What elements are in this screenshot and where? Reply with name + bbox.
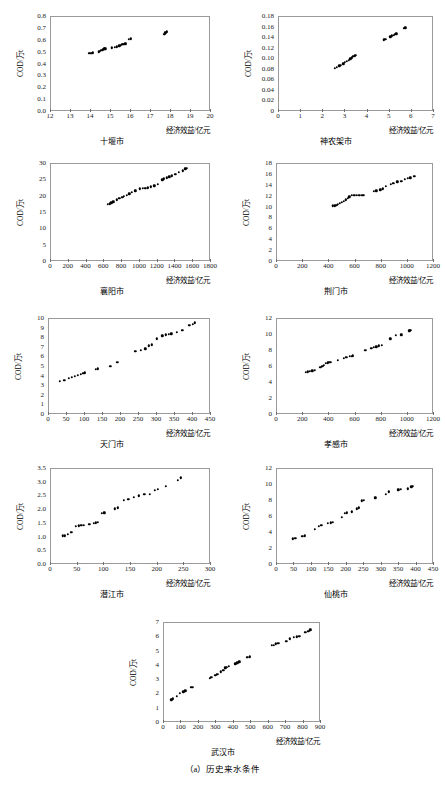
y-tick-mark (276, 208, 277, 209)
x-tick-mark (381, 259, 382, 262)
y-tick-mark (50, 17, 51, 18)
x-tick-mark (50, 109, 51, 112)
y-tick-label: 5 (43, 241, 47, 248)
y-tick-mark (50, 41, 51, 42)
data-point (153, 184, 155, 186)
x-tick-mark (180, 720, 181, 723)
chart-7: COD/万t0246810120501001502002503003504004… (228, 458, 444, 600)
y-tick-label: 1.0 (37, 533, 46, 540)
x-tick-mark (157, 259, 158, 262)
x-tick-label: 400 (323, 263, 334, 270)
y-tick-label: 2 (41, 391, 45, 398)
y-tick-label: 0 (41, 411, 45, 418)
x-tick-mark (84, 412, 85, 415)
x-tick-label: 150 (97, 416, 108, 423)
data-point (156, 337, 158, 339)
y-tick-mark (48, 348, 49, 349)
x-tick-mark (416, 562, 417, 565)
x-tick-label: 1200 (426, 263, 440, 270)
data-point (140, 349, 142, 351)
y-tick-mark (276, 229, 277, 230)
x-tick-mark (210, 109, 211, 112)
x-axis-label: 经济效益/亿元 (276, 427, 433, 438)
chart-8: COD/万t0123456701002003004005006007008009… (115, 612, 331, 762)
data-point (412, 485, 414, 487)
y-tick-mark (276, 319, 277, 320)
x-tick-label: 800 (375, 263, 386, 270)
data-point (186, 167, 188, 169)
y-tick-mark (48, 319, 49, 320)
y-axis-label-text: COD/万t (240, 352, 251, 379)
x-tick-mark (150, 109, 151, 112)
data-point (314, 369, 316, 371)
x-tick-mark (407, 412, 408, 415)
data-point (216, 673, 218, 675)
y-tick-mark (50, 496, 51, 497)
y-tick-mark (276, 399, 277, 400)
data-point (127, 498, 129, 500)
x-tick-mark (86, 259, 87, 262)
y-tick-mark (50, 469, 51, 470)
x-tick-mark (170, 109, 171, 112)
y-tick-mark (163, 709, 164, 710)
x-tick-mark (293, 562, 294, 565)
y-tick-labels: 024681012 (252, 468, 274, 564)
y-tick-mark (50, 53, 51, 54)
data-point (177, 479, 179, 481)
data-point (309, 629, 311, 631)
data-point (134, 190, 136, 192)
y-tick-label: 0 (269, 258, 273, 265)
y-tick-mark (278, 70, 279, 71)
y-tick-label: 3.5 (37, 465, 46, 472)
x-tick-label: 400 (80, 263, 91, 270)
y-tick-label: 8 (269, 347, 273, 354)
x-tick-label: 1000 (400, 263, 414, 270)
data-point (285, 640, 287, 642)
x-tick-mark (355, 412, 356, 415)
data-point (96, 368, 98, 370)
y-tick-mark (50, 29, 51, 30)
data-point (63, 379, 65, 381)
y-tick-mark (276, 469, 277, 470)
data-point (143, 493, 145, 495)
y-tick-mark (50, 100, 51, 101)
x-tick-mark (300, 109, 301, 112)
x-tick-label: 16 (127, 113, 134, 120)
x-tick-mark (68, 259, 69, 262)
y-tick-mark (50, 213, 51, 214)
data-point (395, 334, 397, 336)
y-tick-mark (50, 164, 51, 165)
y-axis-label: COD/万t (125, 622, 139, 722)
chart-title: 十堰市 (4, 135, 220, 146)
x-tick-mark (174, 259, 175, 262)
figure-caption: （a）历史来水条件 (0, 762, 445, 774)
x-tick-label: 200 (193, 724, 204, 731)
chart-title: 荆门市 (228, 285, 444, 296)
data-point (97, 521, 99, 523)
y-tick-label: 6 (269, 363, 273, 370)
x-tick-mark (302, 412, 303, 415)
y-tick-label: 12 (265, 192, 272, 199)
x-tick-mark (344, 109, 345, 112)
data-point (238, 661, 240, 663)
x-tick-label: 1200 (150, 263, 164, 270)
x-tick-mark (48, 412, 49, 415)
y-tick-mark (276, 533, 277, 534)
x-tick-label: 1400 (167, 263, 181, 270)
y-tick-label: 0 (156, 719, 160, 726)
data-point (400, 333, 402, 335)
data-point (407, 487, 409, 489)
data-point (70, 376, 72, 378)
y-tick-mark (50, 538, 51, 539)
x-tick-label: 450 (205, 416, 216, 423)
y-tick-label: 2 (269, 395, 273, 402)
y-tick-label: 6 (156, 633, 160, 640)
data-point (194, 322, 196, 324)
y-axis-label-text: COD/万t (14, 502, 25, 529)
y-tick-mark (163, 666, 164, 667)
y-tick-mark (50, 246, 51, 247)
y-tick-mark (48, 396, 49, 397)
y-tick-label: 5 (156, 647, 160, 654)
x-tick-label: 250 (358, 566, 369, 573)
data-point (181, 329, 183, 331)
